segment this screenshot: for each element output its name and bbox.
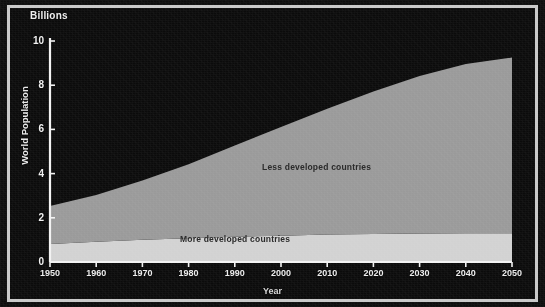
y-tick-label: 6 xyxy=(18,123,44,134)
y-tick-label: 10 xyxy=(18,35,44,46)
x-tick-label: 1960 xyxy=(74,268,118,278)
area-series-group xyxy=(50,58,512,262)
x-tick-label: 2030 xyxy=(398,268,442,278)
x-tick-label: 2000 xyxy=(259,268,303,278)
y-tick-label: 2 xyxy=(18,212,44,223)
x-tick-label: 1990 xyxy=(213,268,257,278)
x-axis-title: Year xyxy=(0,286,545,296)
series-label-more-developed: More developed countries xyxy=(180,234,290,244)
series-label-less-developed: Less developed countries xyxy=(262,162,371,172)
y-axis-unit-label: Billions xyxy=(30,10,68,21)
x-tick-label: 1950 xyxy=(28,268,72,278)
x-tick-label: 1970 xyxy=(120,268,164,278)
chart-plot-area xyxy=(0,0,545,307)
y-tick-label: 8 xyxy=(18,79,44,90)
x-tick-label: 1980 xyxy=(167,268,211,278)
x-tick-label: 2050 xyxy=(490,268,534,278)
area-band-less-developed xyxy=(50,58,512,245)
y-tick-label: 4 xyxy=(18,168,44,179)
population-area-chart: Billions World Population Year 0246810 1… xyxy=(0,0,545,307)
x-tick-label: 2010 xyxy=(305,268,349,278)
x-tick-label: 2040 xyxy=(444,268,488,278)
y-tick-label: 0 xyxy=(18,256,44,267)
x-tick-label: 2020 xyxy=(351,268,395,278)
